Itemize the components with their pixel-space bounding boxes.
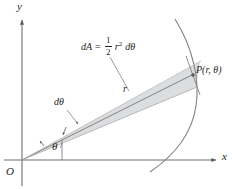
fraction-numerator: 1	[105, 36, 112, 45]
x-axis-label: x	[222, 151, 227, 162]
point-P-label: P(r, θ)	[196, 65, 221, 75]
formula-lhs: dA	[81, 42, 92, 52]
dtheta-leader-line	[67, 110, 78, 124]
formula-fraction: 1 2	[105, 36, 112, 57]
figure-canvas	[0, 0, 235, 189]
radius-line	[22, 74, 194, 160]
polar-area-element-figure: y x O θ dθ r P(r, θ) dA = 1 2 r2 dθ	[0, 0, 235, 189]
formula-equals-sign: =	[95, 42, 101, 52]
wedge-upper-ray	[22, 61, 201, 160]
theta-angle-label: θ	[52, 141, 57, 152]
point-P-marker	[191, 73, 195, 77]
dtheta-arrow-lower	[63, 127, 66, 135]
area-element-formula: dA = 1 2 r2 dθ	[81, 36, 135, 57]
origin-label: O	[6, 166, 14, 177]
y-axis-label: y	[17, 1, 22, 12]
fraction-denominator: 2	[105, 48, 112, 57]
dtheta-arrow-upper	[40, 141, 44, 146]
radius-label: r	[123, 84, 127, 94]
formula-differential: dθ	[125, 42, 135, 52]
dtheta-label: dθ	[54, 97, 64, 107]
wedge-lower-ray	[22, 87, 197, 160]
